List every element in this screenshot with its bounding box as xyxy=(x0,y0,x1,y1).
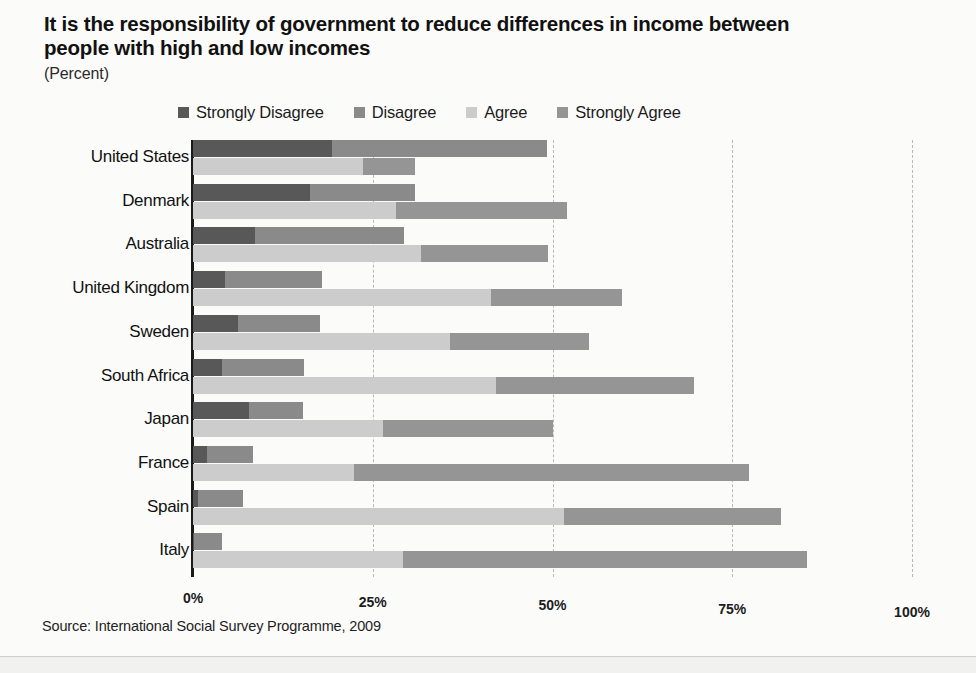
category-label: Australia xyxy=(126,234,189,254)
chart-subtitle: (Percent) xyxy=(44,65,804,83)
bar-row xyxy=(193,184,912,228)
bar-agree-stack xyxy=(193,245,912,262)
bar-segment-disagree xyxy=(332,140,547,157)
bar-segment-agree xyxy=(193,420,383,437)
legend-swatch-icon xyxy=(178,107,189,118)
bar-segment-strongly-agree xyxy=(383,420,553,437)
bar-segment-disagree xyxy=(310,184,415,201)
bar-segment-strongly-disagree xyxy=(193,315,238,332)
bar-agree-stack xyxy=(193,464,912,481)
bar-segment-strongly-disagree xyxy=(193,359,222,376)
bar-row xyxy=(193,446,912,490)
category-label: Sweden xyxy=(129,322,189,342)
legend-swatch-icon xyxy=(466,107,477,118)
bar-disagree-stack xyxy=(193,533,912,550)
bar-agree-stack xyxy=(193,420,912,437)
legend-label: Agree xyxy=(484,103,527,122)
bar-segment-strongly-disagree xyxy=(193,271,225,288)
bar-row xyxy=(193,227,912,271)
legend-label: Disagree xyxy=(372,103,436,122)
bar-segment-disagree xyxy=(207,446,253,463)
category-label: Japan xyxy=(144,409,189,429)
bar-segment-agree xyxy=(193,464,354,481)
bar-disagree-stack xyxy=(193,227,912,244)
bar-segment-strongly-disagree xyxy=(193,184,310,201)
bar-disagree-stack xyxy=(193,359,912,376)
bar-agree-stack xyxy=(193,333,912,350)
bar-row xyxy=(193,359,912,403)
legend-swatch-icon xyxy=(557,107,568,118)
category-label: United States xyxy=(91,147,189,167)
category-label: France xyxy=(138,453,189,473)
bar-segment-strongly-agree xyxy=(363,158,415,175)
bar-segment-strongly-agree xyxy=(396,202,566,219)
legend-item: Agree xyxy=(466,103,527,122)
title-block: It is the responsibility of government t… xyxy=(44,12,804,83)
bar-row xyxy=(193,490,912,534)
bar-segment-strongly-agree xyxy=(421,245,548,262)
bar-segment-strongly-agree xyxy=(450,333,589,350)
bar-agree-stack xyxy=(193,289,912,306)
bar-agree-stack xyxy=(193,377,912,394)
chart-title: It is the responsibility of government t… xyxy=(44,12,804,60)
legend-label: Strongly Agree xyxy=(575,103,680,122)
bar-agree-stack xyxy=(193,508,912,525)
bar-disagree-stack xyxy=(193,184,912,201)
bar-segment-disagree xyxy=(198,490,243,507)
category-label: Italy xyxy=(159,540,189,560)
bar-row xyxy=(193,140,912,184)
legend-item: Disagree xyxy=(354,103,436,122)
bar-segment-strongly-disagree xyxy=(193,140,332,157)
bar-disagree-stack xyxy=(193,271,912,288)
bar-agree-stack xyxy=(193,551,912,568)
bar-disagree-stack xyxy=(193,140,912,157)
bar-segment-agree xyxy=(193,202,396,219)
bar-segment-agree xyxy=(193,508,564,525)
x-tick-label: 100% xyxy=(894,604,930,620)
x-tick-label: 50% xyxy=(538,597,566,613)
legend-item: Strongly Disagree xyxy=(178,103,324,122)
bar-segment-strongly-agree xyxy=(564,508,781,525)
bar-segment-agree xyxy=(193,377,496,394)
gridline xyxy=(912,140,914,577)
bar-agree-stack xyxy=(193,158,912,175)
chart-legend: Strongly DisagreeDisagreeAgreeStrongly A… xyxy=(178,103,681,122)
bar-segment-agree xyxy=(193,551,403,568)
bar-segment-disagree xyxy=(194,533,222,550)
bar-disagree-stack xyxy=(193,490,912,507)
bar-segment-disagree xyxy=(255,227,405,244)
bar-row xyxy=(193,533,912,577)
bar-segment-strongly-disagree xyxy=(193,227,255,244)
bar-segment-agree xyxy=(193,158,363,175)
bar-segment-strongly-agree xyxy=(491,289,621,306)
category-label: South Africa xyxy=(101,366,189,386)
legend-label: Strongly Disagree xyxy=(196,103,324,122)
bar-disagree-stack xyxy=(193,446,912,463)
source-note: Source: International Social Survey Prog… xyxy=(42,618,381,634)
bar-row xyxy=(193,315,912,359)
bar-segment-strongly-disagree xyxy=(193,402,249,419)
plot-area xyxy=(193,140,912,577)
legend-item: Strongly Agree xyxy=(557,103,680,122)
bar-disagree-stack xyxy=(193,402,912,419)
bar-segment-strongly-agree xyxy=(403,551,807,568)
category-label: Denmark xyxy=(122,191,189,211)
bar-segment-disagree xyxy=(222,359,305,376)
bar-segment-disagree xyxy=(225,271,323,288)
bar-segment-agree xyxy=(193,245,421,262)
chart-figure: It is the responsibility of government t… xyxy=(0,0,976,673)
category-label: United Kingdom xyxy=(72,278,189,298)
bar-segment-agree xyxy=(193,333,450,350)
bar-disagree-stack xyxy=(193,315,912,332)
page-edge xyxy=(0,657,976,673)
bar-segment-disagree xyxy=(238,315,320,332)
bar-row xyxy=(193,271,912,315)
x-tick-label: 0% xyxy=(183,590,203,606)
bar-segment-disagree xyxy=(249,402,303,419)
bar-agree-stack xyxy=(193,202,912,219)
legend-swatch-icon xyxy=(354,107,365,118)
bar-segment-strongly-agree xyxy=(354,464,749,481)
bar-row xyxy=(193,402,912,446)
bar-segment-agree xyxy=(193,289,491,306)
category-label: Spain xyxy=(147,497,189,517)
